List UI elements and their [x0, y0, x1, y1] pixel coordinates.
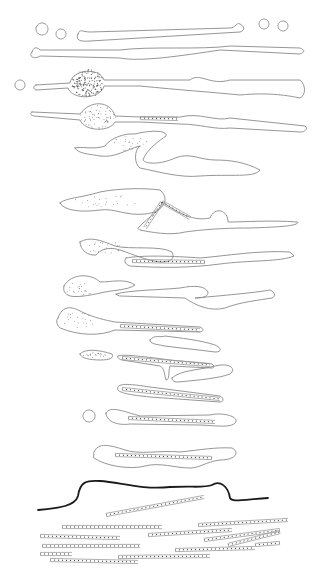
- dotted-rod: [175, 546, 255, 551]
- dotted-rod: [42, 544, 140, 547]
- tube-outline: [64, 276, 135, 297]
- tube-outline: [106, 409, 236, 426]
- round-body: [259, 19, 269, 29]
- dotted-rod: [161, 201, 191, 220]
- dotted-rod: [128, 416, 215, 423]
- dotted-rod: [144, 201, 164, 229]
- tube-outline: [80, 239, 173, 262]
- round-body: [56, 29, 66, 39]
- tube-outlines: [31, 24, 307, 468]
- dotted-rod: [50, 558, 138, 563]
- dotted-rod: [122, 356, 210, 366]
- tube-outline: [60, 189, 165, 215]
- dark-boundary-line: [38, 481, 268, 510]
- round-body: [83, 410, 95, 422]
- tube-outline: [34, 71, 305, 98]
- stipple-region: [67, 283, 91, 296]
- tube-outline: [116, 286, 274, 309]
- stipple-region: [83, 352, 106, 358]
- dotted-rod: [115, 453, 212, 459]
- tube-outline: [77, 24, 244, 42]
- round-body: [278, 21, 288, 31]
- tube-outline: [118, 355, 214, 380]
- dotted-rod: [62, 525, 162, 528]
- tube-outline: [75, 131, 260, 176]
- dotted-rod: [106, 495, 205, 516]
- round-body: [15, 80, 25, 90]
- tube-outline: [31, 104, 307, 132]
- stippled-regions: [64, 69, 147, 358]
- dotted-rod: [255, 541, 280, 546]
- round-body: [36, 23, 48, 35]
- tube-outline: [150, 336, 220, 352]
- dotted-rod: [40, 534, 120, 539]
- stipple-region: [75, 195, 135, 207]
- tube-outline: [31, 46, 304, 59]
- stipple-region: [89, 242, 125, 253]
- figure-canvas: [0, 0, 326, 584]
- dotted-rod: [132, 259, 205, 263]
- dotted-rod: [118, 554, 210, 558]
- dotted-rod: [198, 518, 288, 526]
- dotted-rod: [40, 552, 72, 555]
- dotted-rod: [148, 528, 232, 536]
